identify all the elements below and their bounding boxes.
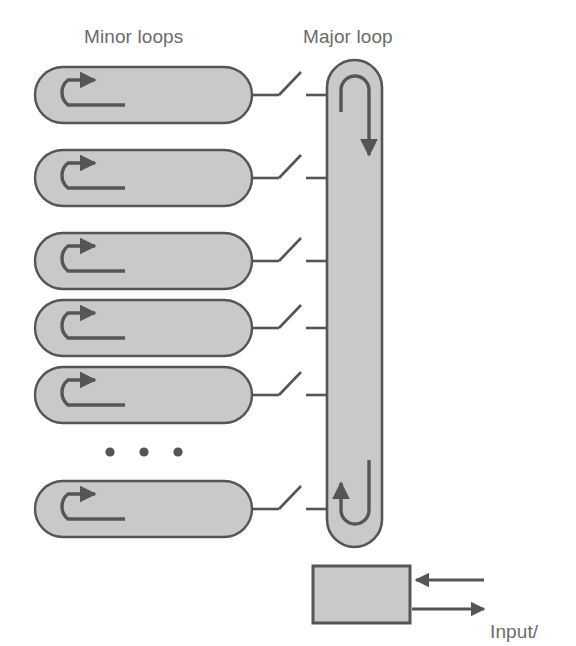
switch-blade: [279, 305, 301, 328]
io-label-line1: Input/: [490, 619, 543, 644]
switch-connector-3[interactable]: [252, 238, 330, 261]
ellipsis-dot: [105, 447, 114, 456]
minor-loop-3[interactable]: [35, 233, 252, 289]
major-loop-label: Major loop: [303, 26, 393, 48]
minor-loop-6[interactable]: [35, 481, 252, 537]
minor-loop-body: [35, 233, 252, 289]
switch-blade: [279, 72, 301, 95]
switch-connector-5[interactable]: [252, 372, 330, 395]
minor-loop-5[interactable]: [35, 367, 252, 423]
minor-loop-2[interactable]: [35, 150, 252, 206]
minor-loop-body: [35, 481, 252, 537]
switch-connector-1[interactable]: [252, 72, 330, 95]
minor-loop-body: [35, 300, 252, 356]
minor-loop-body: [35, 367, 252, 423]
io-box-body: [313, 566, 410, 623]
minor-loop-body: [35, 67, 252, 123]
switch-connector-6[interactable]: [252, 486, 330, 509]
switch-blade: [279, 372, 301, 395]
ellipsis-dot: [173, 447, 182, 456]
minor-loop-4[interactable]: [35, 300, 252, 356]
switch-connector-2[interactable]: [252, 155, 330, 178]
bubble-memory-diagram: [0, 0, 576, 646]
io-box[interactable]: [313, 566, 484, 623]
io-label: Input/ output: [490, 569, 543, 646]
switch-blade: [279, 238, 301, 261]
switch-blade: [279, 155, 301, 178]
switch-blade: [279, 486, 301, 509]
major-loop-body: [327, 60, 382, 547]
minor-loop-1[interactable]: [35, 67, 252, 123]
switch-connector-4[interactable]: [252, 305, 330, 328]
ellipsis-dots: [105, 447, 182, 456]
major-loop[interactable]: [327, 60, 382, 547]
diagram-canvas: Minor loops Major loop Input/ output: [0, 0, 576, 646]
minor-loop-body: [35, 150, 252, 206]
minor-loops-label: Minor loops: [84, 26, 183, 48]
ellipsis-dot: [139, 447, 148, 456]
